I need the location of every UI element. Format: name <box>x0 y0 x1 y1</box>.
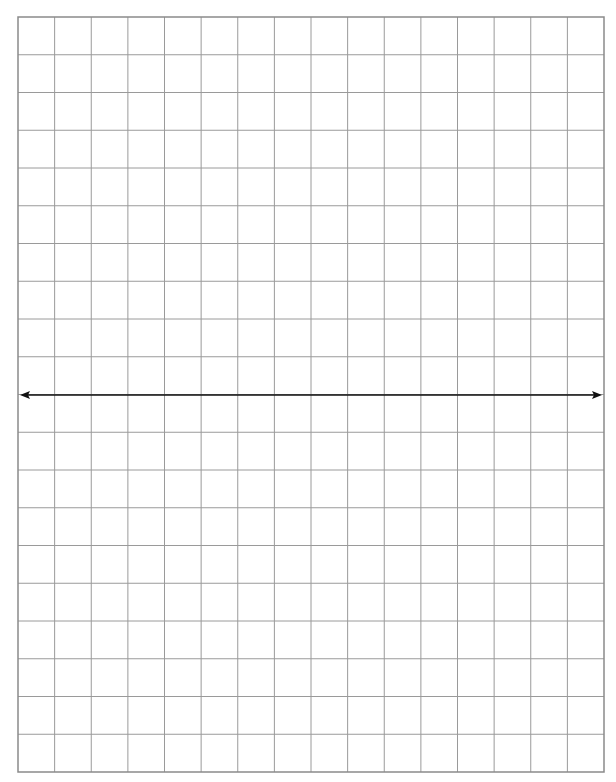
graph-paper-canvas <box>0 0 616 782</box>
